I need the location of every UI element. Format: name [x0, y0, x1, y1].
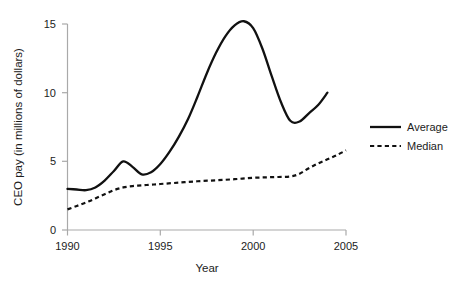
y-axis-title: CEO pay (in millions of dollars): [12, 48, 24, 206]
y-tick-label-0: 0: [50, 224, 56, 236]
y-tick-labels: 0 5 10 15: [44, 18, 56, 236]
axis-group: [62, 24, 346, 236]
y-tick-label-15: 15: [44, 18, 56, 30]
x-tick-label-2000: 2000: [241, 240, 265, 252]
x-tick-label-1990: 1990: [55, 240, 79, 252]
x-tick-label-2005: 2005: [334, 240, 358, 252]
y-tick-label-10: 10: [44, 87, 56, 99]
series-line-median: [68, 150, 347, 209]
x-tick-labels: 1990 1995 2000 2005: [55, 240, 358, 252]
series-line-average: [68, 21, 328, 190]
x-tick-label-1995: 1995: [148, 240, 172, 252]
x-axis-title: Year: [195, 262, 218, 274]
chart-legend: Average Median: [370, 121, 448, 152]
legend-label-average: Average: [407, 121, 448, 133]
legend-label-median: Median: [407, 140, 443, 152]
ceo-pay-line-chart: 0 5 10 15 1990 1995 2000 2005 Year CEO p…: [0, 0, 469, 290]
y-tick-label-5: 5: [50, 155, 56, 167]
chart-canvas: 0 5 10 15 1990 1995 2000 2005 Year CEO p…: [0, 0, 469, 290]
